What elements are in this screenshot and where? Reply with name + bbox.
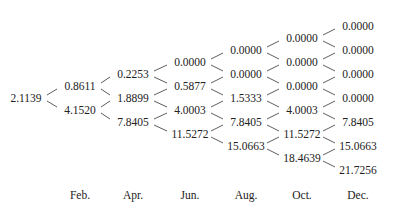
tree-node: 2.1139 xyxy=(4,92,48,104)
column-label: Dec. xyxy=(338,189,378,201)
tree-node: 18.4639 xyxy=(280,152,324,164)
tree-node: 7.8405 xyxy=(336,116,380,128)
tree-node: 0.0000 xyxy=(280,32,324,44)
column-label: Feb. xyxy=(60,189,100,201)
column-label: Aug. xyxy=(226,189,266,201)
binomial-tree-diagram: 2.11390.86114.15200.22531.88997.84050.00… xyxy=(0,0,399,213)
tree-node: 0.0000 xyxy=(336,20,380,32)
tree-node: 0.0000 xyxy=(336,68,380,80)
tree-node: 0.2253 xyxy=(111,68,155,80)
tree-node: 1.8899 xyxy=(111,92,155,104)
tree-node: 0.0000 xyxy=(168,56,212,68)
tree-node: 0.0000 xyxy=(280,80,324,92)
tree-node: 15.0663 xyxy=(336,140,380,152)
tree-node: 1.5333 xyxy=(224,92,268,104)
tree-node: 0.0000 xyxy=(336,44,380,56)
column-label: Apr. xyxy=(113,189,153,201)
tree-node: 21.7256 xyxy=(336,164,380,176)
tree-node: 0.8611 xyxy=(58,80,102,92)
tree-node: 0.0000 xyxy=(280,56,324,68)
tree-node: 4.0003 xyxy=(168,104,212,116)
tree-node: 4.0003 xyxy=(280,104,324,116)
column-label: Oct. xyxy=(282,189,322,201)
column-label: Jun. xyxy=(170,189,210,201)
tree-node: 0.0000 xyxy=(224,68,268,80)
tree-node: 7.8405 xyxy=(111,116,155,128)
tree-node: 11.5272 xyxy=(168,128,212,140)
tree-node: 0.0000 xyxy=(224,44,268,56)
tree-node: 0.0000 xyxy=(336,92,380,104)
tree-node: 4.1520 xyxy=(58,104,102,116)
tree-node: 0.5877 xyxy=(168,80,212,92)
tree-node: 15.0663 xyxy=(224,140,268,152)
tree-node: 7.8405 xyxy=(224,116,268,128)
tree-node: 11.5272 xyxy=(280,128,324,140)
